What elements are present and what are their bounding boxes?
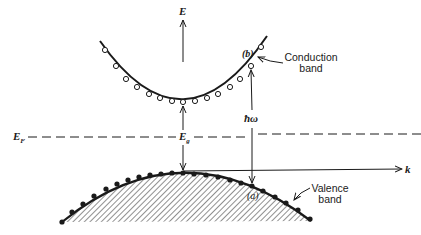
conduction-band-label-line2: band	[283, 63, 339, 74]
valence-band-label: Valence band	[308, 183, 352, 205]
fermi-level-label: EF	[13, 130, 25, 145]
band-diagram	[0, 0, 421, 235]
energy-axis-label: E	[179, 5, 186, 17]
valence-band-label-line2: band	[308, 194, 352, 205]
point-a-label: (a)	[247, 190, 259, 201]
k-axis-label: k	[405, 163, 411, 175]
band-gap-subscript: g	[186, 137, 190, 145]
fermi-level-subscript: F	[20, 137, 25, 145]
photon-energy-label: ħω	[244, 112, 258, 124]
band-gap-label: Eg	[179, 130, 190, 145]
transition-arrow-up	[251, 70, 252, 110]
k-axis	[183, 169, 402, 171]
conduction-band-label: Conduction band	[283, 52, 339, 74]
conduction-label-pointer	[258, 57, 283, 63]
point-b-label: (b)	[242, 48, 254, 59]
